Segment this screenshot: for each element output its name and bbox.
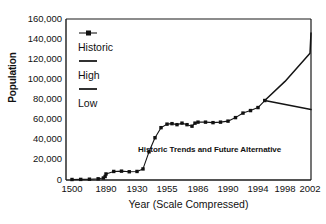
- data-point-marker: [112, 170, 115, 173]
- data-point-marker: [141, 167, 144, 170]
- data-point-marker: [219, 120, 222, 123]
- data-point-marker: [104, 172, 107, 175]
- series-line: [72, 101, 265, 180]
- data-point-marker: [153, 136, 156, 139]
- data-point-marker: [241, 111, 244, 114]
- data-point-marker: [165, 122, 168, 125]
- legend-swatches: [79, 31, 97, 90]
- data-point-marker: [88, 178, 91, 181]
- data-point-marker: [120, 169, 123, 172]
- data-point-marker: [175, 123, 178, 126]
- axis-spines: [66, 19, 311, 180]
- series-line: [265, 33, 311, 100]
- legend-swatch-historic-marker: [86, 31, 91, 36]
- series-line: [265, 101, 311, 110]
- data-point-marker: [170, 122, 173, 125]
- series-low: [265, 101, 311, 110]
- data-point-marker: [193, 121, 196, 124]
- data-point-marker: [96, 177, 99, 180]
- data-point-marker: [196, 120, 199, 123]
- data-point-marker: [249, 109, 252, 112]
- data-point-marker: [79, 178, 82, 181]
- plot-area: [0, 0, 326, 224]
- data-point-marker: [185, 123, 188, 126]
- data-point-marker: [159, 126, 162, 129]
- series-historic: [70, 99, 266, 181]
- series-high: [265, 33, 311, 100]
- data-point-marker: [256, 106, 259, 109]
- population-chart-figure: Population 160,000 140,000 120,000 100,0…: [0, 0, 326, 224]
- data-point-marker: [190, 124, 193, 127]
- data-point-marker: [180, 121, 183, 124]
- data-point-marker: [226, 119, 229, 122]
- data-point-marker: [70, 178, 73, 181]
- data-point-marker: [234, 116, 237, 119]
- data-series-layer: [70, 33, 311, 181]
- data-point-marker: [204, 120, 207, 123]
- data-point-marker: [135, 170, 138, 173]
- data-point-marker: [211, 121, 214, 124]
- data-point-marker: [128, 170, 131, 173]
- data-point-marker: [147, 150, 150, 153]
